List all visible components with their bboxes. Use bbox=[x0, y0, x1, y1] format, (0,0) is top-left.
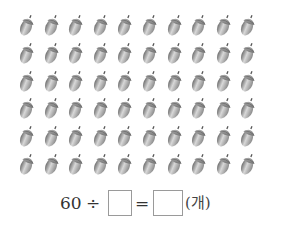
acorn-icon bbox=[239, 68, 257, 94]
acorn-icon bbox=[116, 68, 134, 94]
division-equation: 60 ÷ = (개) bbox=[0, 188, 281, 220]
acorn-icon bbox=[18, 12, 36, 38]
acorn-icon bbox=[166, 95, 184, 121]
acorn-icon bbox=[215, 68, 233, 94]
acorn-icon bbox=[116, 151, 134, 177]
acorn-icon bbox=[43, 40, 61, 66]
acorn-icon bbox=[18, 40, 36, 66]
acorn-icon bbox=[43, 68, 61, 94]
acorn-icon bbox=[239, 151, 257, 177]
acorn-icon bbox=[141, 40, 159, 66]
acorn-icon bbox=[166, 12, 184, 38]
acorn-icon bbox=[18, 123, 36, 149]
acorn-icon bbox=[43, 95, 61, 121]
dividend: 60 bbox=[60, 192, 82, 214]
acorn-icon bbox=[166, 123, 184, 149]
divisor-answer-box[interactable] bbox=[108, 190, 132, 216]
acorn-icon bbox=[141, 95, 159, 121]
acorn-icon bbox=[239, 123, 257, 149]
acorn-icon bbox=[67, 151, 85, 177]
acorn-icon bbox=[166, 68, 184, 94]
acorn-icon bbox=[141, 123, 159, 149]
acorn-icon bbox=[92, 123, 110, 149]
acorn-icon bbox=[18, 151, 36, 177]
acorn-icon bbox=[190, 68, 208, 94]
acorn-icon bbox=[67, 68, 85, 94]
acorn-icon bbox=[43, 12, 61, 38]
quotient-answer-box[interactable] bbox=[153, 190, 183, 216]
acorn-icon bbox=[190, 40, 208, 66]
acorn-icon bbox=[215, 123, 233, 149]
acorn-icon bbox=[116, 40, 134, 66]
acorn-icon bbox=[67, 95, 85, 121]
acorn-icon bbox=[18, 95, 36, 121]
acorn-icon bbox=[43, 123, 61, 149]
acorn-icon bbox=[92, 68, 110, 94]
acorn-icon bbox=[141, 151, 159, 177]
equals-sign: = bbox=[135, 192, 149, 214]
acorn-icon bbox=[116, 12, 134, 38]
acorn-icon bbox=[239, 40, 257, 66]
acorn-icon bbox=[239, 95, 257, 121]
acorn-icon bbox=[67, 12, 85, 38]
acorn-icon bbox=[215, 40, 233, 66]
acorn-icon bbox=[215, 151, 233, 177]
acorn-icon bbox=[67, 40, 85, 66]
divide-sign: ÷ bbox=[86, 192, 100, 214]
acorn-icon bbox=[92, 40, 110, 66]
acorn-icon bbox=[190, 95, 208, 121]
unit-label: (개) bbox=[185, 193, 211, 213]
acorn-icon bbox=[215, 95, 233, 121]
acorn-icon bbox=[116, 123, 134, 149]
acorn-grid bbox=[0, 0, 281, 185]
acorn-icon bbox=[215, 12, 233, 38]
acorn-icon bbox=[166, 40, 184, 66]
acorn-icon bbox=[92, 151, 110, 177]
acorn-icon bbox=[18, 68, 36, 94]
acorn-icon bbox=[92, 95, 110, 121]
acorn-icon bbox=[190, 151, 208, 177]
acorn-icon bbox=[141, 68, 159, 94]
acorn-icon bbox=[190, 12, 208, 38]
acorn-icon bbox=[67, 123, 85, 149]
acorn-icon bbox=[43, 151, 61, 177]
acorn-icon bbox=[141, 12, 159, 38]
acorn-icon bbox=[190, 123, 208, 149]
acorn-icon bbox=[166, 151, 184, 177]
acorn-icon bbox=[116, 95, 134, 121]
acorn-icon bbox=[92, 12, 110, 38]
acorn-icon bbox=[239, 12, 257, 38]
